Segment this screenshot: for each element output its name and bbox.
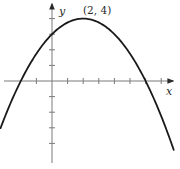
parabola-curve xyxy=(1,19,174,150)
x-axis-label: x xyxy=(166,85,173,98)
vertex-label: (2, 4) xyxy=(83,4,111,16)
y-axis-label: y xyxy=(58,5,66,18)
parabola-chart: y x (2, 4) xyxy=(0,0,180,169)
